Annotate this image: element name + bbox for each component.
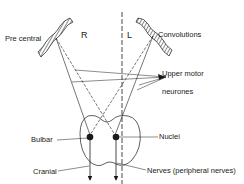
label-bulbar: Bulbar [31, 136, 53, 144]
label-nuclei: Nuclei [159, 133, 180, 141]
bulbar-leader [57, 138, 88, 140]
medulla-outline [80, 116, 140, 166]
right-upper-motor-pathways [90, 36, 153, 135]
label-upper-motor: Upper motor [162, 70, 204, 78]
label-convolutions: Convolutions [158, 31, 201, 39]
motor-pathway-diagram [0, 0, 244, 184]
label-pre-central: Pre central [5, 35, 41, 43]
label-left: L [127, 31, 132, 40]
left-convolutions-icon [38, 18, 73, 57]
label-right: R [81, 31, 88, 40]
label-nerves: Nerves (peripheral nerves) [147, 167, 236, 175]
left-upper-motor-pathways [56, 38, 115, 135]
nerves-leader [117, 163, 146, 170]
upper-motor-pointer-lines [72, 70, 166, 90]
label-cranial: Cranial [33, 168, 57, 176]
cranial-leader [58, 166, 89, 171]
label-neurones: neurones [162, 88, 193, 96]
